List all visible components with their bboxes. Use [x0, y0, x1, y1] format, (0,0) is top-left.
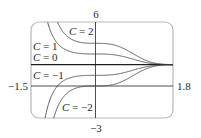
label-c-neg1: C = −1: [33, 69, 64, 81]
y-max-label: 6: [93, 8, 99, 20]
x-min-label: −1.5: [8, 80, 28, 92]
x-max-label: 1.8: [177, 80, 191, 92]
label-c-0: C = 0: [33, 51, 58, 63]
label-c-neg2: C = −2: [62, 101, 93, 113]
label-c-2: C = 2: [69, 25, 94, 37]
y-min-label: −3: [90, 122, 102, 134]
graph-canvas: 6 −3 −1.5 1.8 C = 2 C = 1 C = 0 C = −1 C…: [0, 0, 201, 138]
